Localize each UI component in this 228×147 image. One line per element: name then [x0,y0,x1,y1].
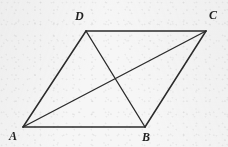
vertex-label-c: C [209,9,217,21]
edge-da [23,31,86,127]
vertex-label-d: D [75,10,84,22]
vertex-label-a: A [9,130,17,142]
diagonal-ac [23,31,206,127]
edge-bc [145,31,206,127]
diagonal-db [86,31,145,127]
parallelogram-drawing [0,0,228,147]
geometry-figure-canvas: A B C D [0,0,228,147]
vertex-label-b: B [142,131,150,143]
